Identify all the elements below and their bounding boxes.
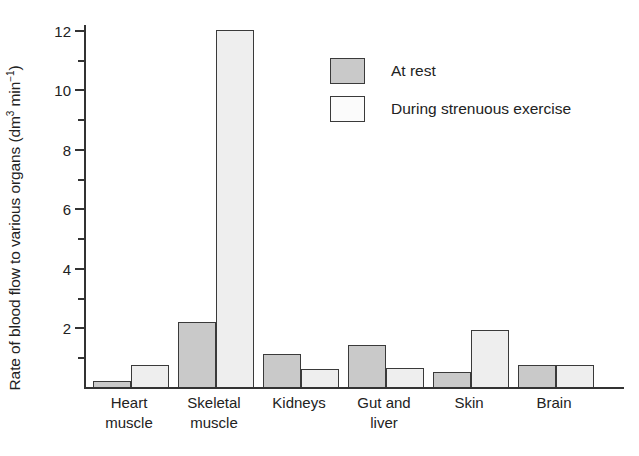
y-tick-minor	[78, 238, 84, 240]
y-tick-minor	[78, 298, 84, 300]
y-tick-label: 8	[63, 141, 71, 158]
y-tick-major	[75, 208, 84, 210]
bar	[301, 369, 339, 387]
y-tick-label: 2	[63, 320, 71, 337]
y-axis-title-sup-volume: 3	[5, 111, 16, 116]
bar	[386, 368, 424, 387]
x-axis-line	[84, 387, 624, 389]
y-tick-label: 4	[63, 260, 71, 277]
bar-group	[433, 330, 509, 387]
y-tick-label: 6	[63, 201, 71, 218]
bar	[518, 365, 556, 387]
bar-group	[93, 365, 169, 387]
y-tick-label: 10	[54, 82, 71, 99]
bar	[131, 365, 169, 387]
legend-swatch	[330, 96, 365, 122]
chart-legend: At restDuring strenuous exercise	[330, 52, 571, 128]
bar	[433, 372, 471, 387]
y-tick-minor	[78, 357, 84, 359]
bar	[178, 322, 216, 387]
legend-label: At rest	[391, 62, 436, 80]
y-tick-major	[75, 149, 84, 151]
bar	[348, 345, 386, 387]
bar-group	[518, 365, 594, 387]
bar-group	[263, 354, 339, 387]
bar	[216, 30, 254, 387]
legend-label: During strenuous exercise	[391, 100, 571, 118]
y-axis-title-text: Rate of blood flow to various organs (dm…	[6, 66, 24, 391]
y-tick-minor	[78, 179, 84, 181]
y-tick-major	[75, 30, 84, 32]
legend-item: During strenuous exercise	[330, 90, 571, 128]
bar-group	[178, 30, 254, 387]
y-tick-major	[75, 327, 84, 329]
legend-swatch	[330, 58, 365, 84]
bar-chart: Rate of blood flow to various organs (dm…	[0, 0, 639, 456]
bar	[556, 365, 594, 387]
y-axis-title: Rate of blood flow to various organs (dm…	[0, 0, 30, 456]
y-tick-major	[75, 89, 84, 91]
legend-item: At rest	[330, 52, 571, 90]
y-tick-label: 12	[54, 22, 71, 39]
bar-group	[348, 345, 424, 387]
bar	[93, 381, 131, 387]
bar	[263, 354, 301, 387]
y-tick-major	[75, 268, 84, 270]
y-axis-title-sup-exponent: −1	[5, 71, 16, 82]
x-axis-category-label: Brain	[502, 393, 606, 413]
x-axis-category-labels: Heart muscleSkeletal muscleKidneysGut an…	[84, 393, 624, 453]
y-tick-minor	[78, 60, 84, 62]
bar	[471, 330, 509, 387]
y-tick-minor	[78, 119, 84, 121]
